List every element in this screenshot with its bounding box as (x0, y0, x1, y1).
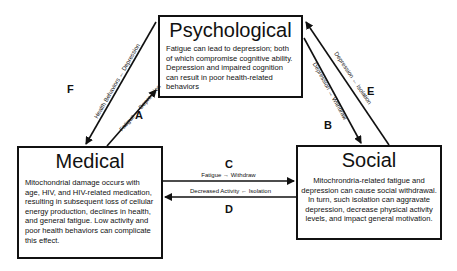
edge-letter-c: C (225, 158, 233, 170)
edge-letter-f: F (67, 83, 74, 95)
edge-letter-d: D (225, 203, 233, 215)
node-medical: Medical Mitochondrial damage occurs with… (17, 146, 163, 259)
node-description: Mitochrondria-related fatigue and depres… (298, 176, 440, 224)
edge-label-c: Fatigue → Withdraw (163, 172, 294, 178)
edge-letter-b: B (324, 119, 332, 131)
node-title: Social (298, 149, 440, 171)
node-social: Social Mitochrondria-related fatigue and… (296, 145, 442, 240)
node-title: Medical (19, 150, 161, 172)
node-title: Psychological (160, 19, 301, 41)
node-description: Mitochondrial damage occurs with age, HI… (19, 178, 161, 245)
edge-label-d: Decreased Activity ← Isolation (165, 188, 296, 194)
node-psychological: Psychological Fatigue can lead to depres… (158, 15, 303, 98)
node-description: Fatigue can lead to depression; both of … (160, 44, 301, 92)
